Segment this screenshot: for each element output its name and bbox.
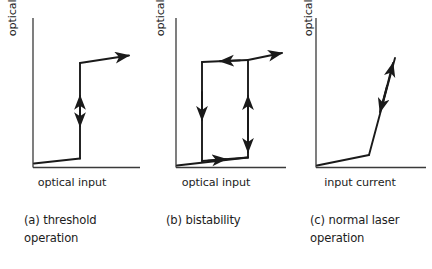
caption-b: (b) bistability [166, 211, 290, 229]
panel-bistability: optical output optical input (b) bistabi… [144, 0, 288, 269]
curve-c [317, 58, 395, 166]
x-axis-label-b: optical input [144, 176, 288, 189]
x-axis-label-a: optical input [0, 176, 144, 189]
axes-a [33, 18, 140, 168]
curve-a [34, 56, 129, 164]
x-axis-label-c: input current [288, 176, 432, 189]
y-axis-label-b: optical output [150, 0, 172, 58]
panel-row: optical output optical input (a) thresho… [0, 0, 432, 269]
slope-arrow-c [380, 63, 393, 112]
loop-arrows-b [202, 60, 248, 160]
curve-b [177, 53, 282, 166]
y-axis-label-a: optical output [2, 0, 24, 58]
panel-threshold-operation: optical output optical input (a) thresho… [0, 0, 144, 269]
caption-a: (a) threshold operation [24, 211, 148, 247]
panel-normal-laser-operation: optical output input current (c) normal … [288, 0, 432, 269]
figure-root: optical output optical input (a) thresho… [0, 0, 432, 269]
caption-c: (c) normal laser operation [310, 211, 432, 247]
axes-b [176, 18, 286, 168]
y-axis-label-c: optical output [298, 0, 320, 58]
